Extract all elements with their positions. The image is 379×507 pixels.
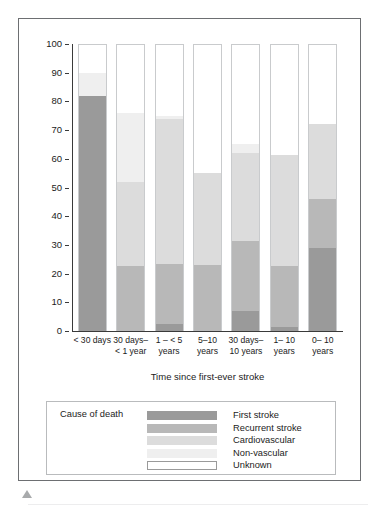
bar-segment-first-stroke (79, 96, 106, 331)
legend-title: Cause of death (60, 409, 123, 419)
legend-swatch (147, 411, 217, 420)
x-axis-line (72, 331, 343, 332)
y-axis-tick-10: 10 (51, 296, 62, 308)
bar-segment-first-stroke (271, 327, 298, 331)
x-axis-tick-label-line: years (147, 346, 191, 357)
legend-label: First stroke (233, 409, 279, 421)
y-axis-tick-30: 30 (51, 239, 62, 251)
figure-frame: Percentage 1009080706050403020100 < 30 d… (18, 18, 361, 481)
bar-segment-recurrent-stroke (156, 264, 183, 324)
stacked-bar (116, 44, 145, 331)
bar-segment-unknown (271, 44, 298, 154)
bar-segment-non-vascular (156, 116, 183, 119)
stacked-bar (308, 44, 337, 331)
y-axis-tick-20: 20 (51, 268, 62, 280)
x-axis-tick-label-line: 5–10 (186, 335, 230, 346)
bar-segment-recurrent-stroke (194, 265, 221, 331)
y-axis-tick-mark (65, 245, 69, 246)
bar-segment-non-vascular (117, 113, 144, 182)
bar-segment-recurrent-stroke (309, 199, 336, 248)
stacked-bar (270, 44, 299, 331)
x-axis-tick-label-line: 1– 10 (262, 335, 306, 346)
y-axis-tick-0: 0 (57, 325, 62, 337)
figure-page: Percentage 1009080706050403020100 < 30 d… (0, 0, 379, 507)
bar-segment-unknown (79, 44, 106, 73)
legend-swatch (147, 449, 217, 458)
triangle-up-icon (22, 490, 32, 498)
y-axis-tick-mark (65, 274, 69, 275)
y-axis-tick-50: 50 (51, 182, 62, 194)
legend: Cause of death First strokeRecurrent str… (46, 401, 336, 475)
x-axis-tick-label-line: < 1 year (109, 346, 153, 357)
bar-segment-recurrent-stroke (117, 266, 144, 331)
bar-segment-unknown (156, 44, 183, 116)
bar-segment-first-stroke (309, 248, 336, 331)
stacked-bar (231, 44, 260, 331)
y-axis-tick-mark (65, 101, 69, 102)
x-axis-tick-label-line: years (186, 346, 230, 357)
legend-label: Non-vascular (233, 447, 288, 459)
bar-segment-cardiovascular (309, 124, 336, 199)
legend-label: Recurrent stroke (233, 422, 302, 434)
y-axis-tick-90: 90 (51, 67, 62, 79)
y-axis-tick-40: 40 (51, 210, 62, 222)
bar-segment-recurrent-stroke (271, 266, 298, 326)
x-axis-tick-label-line: 0– 10 (301, 335, 345, 346)
x-axis-tick-label-line: < 30 days (70, 335, 114, 346)
page-divider (28, 504, 368, 505)
y-axis-tick-mark (65, 188, 69, 189)
x-axis-tick-label-line: 10 years (224, 346, 268, 357)
y-axis-tick-mark (65, 130, 69, 131)
x-axis-tick-label: 1 – < 5years (147, 335, 191, 356)
y-axis-tick-100: 100 (46, 38, 62, 50)
x-axis-tick-label-line: 1 – < 5 (147, 335, 191, 346)
y-axis-tick-70: 70 (51, 124, 62, 136)
bar-segment-non-vascular (79, 73, 106, 96)
legend-label: Unknown (233, 459, 272, 471)
chart-area: Percentage 1009080706050403020100 < 30 d… (19, 19, 362, 367)
legend-swatch (147, 461, 217, 470)
y-axis-tick-mark (65, 331, 69, 332)
bar-segment-unknown (194, 44, 221, 173)
bar-segment-cardiovascular (194, 173, 221, 265)
bar-segment-unknown (309, 44, 336, 124)
x-axis-tick-label-line: 30 days– (109, 335, 153, 346)
legend-swatch (147, 436, 217, 445)
legend-swatch (147, 424, 217, 433)
bar-segment-cardiovascular (271, 155, 298, 267)
y-axis-tick-labels: 1009080706050403020100 (33, 44, 69, 339)
y-axis-tick-mark (65, 302, 69, 303)
stacked-bar (78, 44, 107, 331)
x-axis-tick-label-line: 30 days– (224, 335, 268, 346)
x-axis-tick-label: 5–10years (186, 335, 230, 356)
x-axis-tick-labels: < 30 days30 days–< 1 year1 – < 5years5–1… (73, 335, 342, 367)
bar-segment-unknown (117, 44, 144, 113)
x-axis-tick-label-line: years (301, 346, 345, 357)
bar-segment-cardiovascular (232, 153, 259, 241)
y-axis-tick-mark (65, 216, 69, 217)
x-axis-tick-label: < 30 days (70, 335, 114, 346)
plot-bars (73, 44, 342, 331)
bar-segment-cardiovascular (156, 119, 183, 264)
bar-segment-first-stroke (156, 324, 183, 331)
y-axis-tick-mark (65, 73, 69, 74)
y-axis-tick-60: 60 (51, 153, 62, 165)
legend-label: Cardiovascular (233, 434, 295, 446)
bar-segment-first-stroke (232, 311, 259, 331)
y-axis-tick-mark (65, 44, 69, 45)
x-axis-tick-label: 0– 10years (301, 335, 345, 356)
x-axis-tick-label: 30 days–< 1 year (109, 335, 153, 356)
x-axis-tick-label: 1– 10years (262, 335, 306, 356)
x-axis-title: Time since first-ever stroke (73, 371, 342, 382)
stacked-bar (193, 44, 222, 331)
x-axis-tick-label-line: years (262, 346, 306, 357)
y-axis-tick-80: 80 (51, 95, 62, 107)
y-axis-tick-mark (65, 159, 69, 160)
bar-segment-recurrent-stroke (232, 241, 259, 311)
bar-segment-non-vascular (232, 144, 259, 153)
bar-segment-unknown (232, 44, 259, 144)
bar-segment-cardiovascular (117, 182, 144, 267)
stacked-bar (155, 44, 184, 331)
x-axis-tick-label: 30 days–10 years (224, 335, 268, 356)
